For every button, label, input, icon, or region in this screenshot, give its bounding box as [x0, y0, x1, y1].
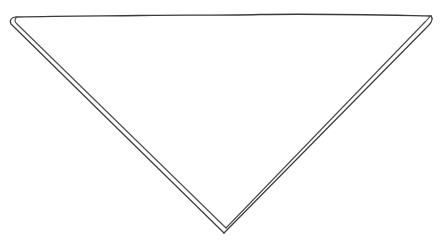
top-edge — [16, 14, 431, 17]
right-edge-outer — [224, 16, 432, 233]
left-edge-inner — [15, 18, 226, 228]
right-edge-inner — [226, 16, 431, 228]
drawing-canvas — [0, 0, 446, 252]
triangle-sketch — [0, 0, 446, 252]
